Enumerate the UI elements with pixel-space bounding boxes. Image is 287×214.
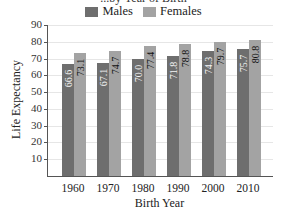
male-bar-1960: 66.6 (62, 64, 74, 176)
bar-value-label: 67.1 (98, 69, 109, 87)
y-tick-label: 90 (14, 18, 42, 30)
bar-value-label: 78.8 (180, 50, 191, 68)
y-tick (44, 75, 48, 76)
legend-label-males: Males (102, 4, 133, 19)
y-tick (44, 109, 48, 110)
bar-value-label: 74.3 (203, 57, 214, 75)
bar-value-label: 66.6 (63, 70, 74, 88)
legend-label-females: Females (160, 4, 202, 19)
females-swatch (143, 7, 156, 17)
bar-value-label: 77.4 (145, 52, 156, 70)
bar-value-label: 80.8 (250, 46, 261, 64)
y-tick (44, 42, 48, 43)
legend-item-females: Females (143, 4, 202, 19)
y-tick-label: 40 (14, 102, 42, 114)
gridline (48, 42, 273, 43)
y-tick (44, 59, 48, 60)
female-bar-1990: 78.8 (179, 44, 191, 176)
y-tick-label: 10 (14, 152, 42, 164)
female-bar-2000: 79.7 (214, 42, 226, 176)
plot-area: 66.673.167.174.770.077.471.878.874.379.7… (47, 25, 273, 177)
bar-value-label: 71.8 (168, 61, 179, 79)
y-tick (44, 92, 48, 93)
bar-value-label: 73.1 (75, 59, 86, 77)
gridline (48, 25, 273, 26)
y-tick-label: 50 (14, 85, 42, 97)
bar-value-label: 75.7 (238, 55, 249, 73)
male-bar-2010: 75.7 (237, 49, 249, 176)
x-tick-label: 2000 (193, 182, 233, 194)
y-tick (44, 25, 48, 26)
female-bar-1960: 73.1 (74, 53, 86, 176)
y-tick-label: 80 (14, 35, 42, 47)
y-tick (44, 159, 48, 160)
y-tick-label: 30 (14, 119, 42, 131)
x-tick-label: 1960 (53, 182, 93, 194)
y-tick-label: 70 (14, 52, 42, 64)
male-bar-1970: 67.1 (97, 63, 109, 176)
male-bar-1990: 71.8 (167, 56, 179, 176)
bar-value-label: 70.0 (133, 64, 144, 82)
bar-value-label: 79.7 (215, 48, 226, 66)
x-tick-label: 2010 (228, 182, 268, 194)
y-tick-label: 20 (14, 135, 42, 147)
x-tick-label: 1980 (123, 182, 163, 194)
x-axis-label: Birth Year (47, 196, 272, 211)
x-tick-label: 1990 (158, 182, 198, 194)
males-swatch (85, 7, 98, 17)
female-bar-1970: 74.7 (109, 51, 121, 176)
y-tick-label: 60 (14, 68, 42, 80)
male-bar-1980: 70.0 (132, 59, 144, 176)
female-bar-1980: 77.4 (144, 46, 156, 176)
y-tick (44, 126, 48, 127)
x-tick-label: 1970 (88, 182, 128, 194)
legend-item-males: Males (85, 4, 133, 19)
legend: Males Females (0, 4, 287, 19)
male-bar-2000: 74.3 (202, 51, 214, 176)
y-tick (44, 142, 48, 143)
bar-value-label: 74.7 (110, 56, 121, 74)
female-bar-2010: 80.8 (249, 40, 261, 176)
